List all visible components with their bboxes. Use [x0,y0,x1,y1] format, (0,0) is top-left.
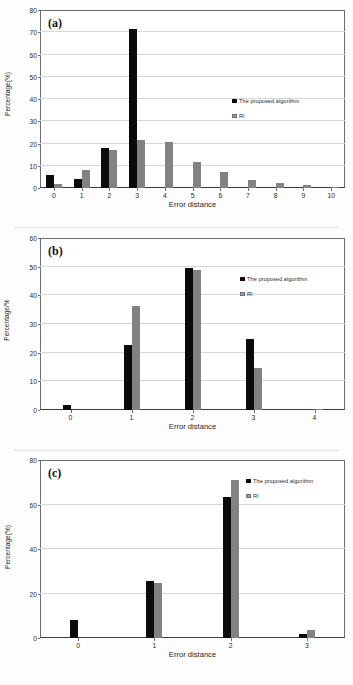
bar-ri [331,187,339,188]
x-tick-label: 2 [191,414,195,421]
x-tick-mark [303,188,304,191]
chart-panel-c: Percentage(%) (c) 020406080 0123 Error d… [0,452,353,680]
x-tick-label: 5 [191,192,195,199]
bar-proposed [246,339,254,410]
bar-group: 0 [40,10,68,188]
x-tick-mark [254,410,255,413]
chart-panel-a: Percentage(%) (a) 01020304050607080 0123… [0,2,353,224]
y-tick-label: 50 [29,263,37,270]
x-tick-mark [82,188,83,191]
bar-group: 1 [101,238,162,410]
bar-ri [193,270,201,410]
bar-group: 1 [68,10,96,188]
x-tick-mark [132,410,133,413]
legend-swatch-ri-icon [240,292,245,297]
y-axis-title-a: Percentage(%) [4,72,11,116]
x-tick-label: 9 [302,192,306,199]
y-tick-mark [38,410,41,411]
bar-ri [137,140,145,188]
x-tick-label: 1 [152,642,156,649]
legend-swatch-proposed-icon [246,479,251,484]
bar-ri [193,162,201,188]
y-tick-label: 80 [29,457,37,464]
x-tick-label: 3 [135,192,139,199]
x-tick-mark [331,188,332,191]
x-tick-mark [154,638,155,641]
bar-series-b: 01234 [40,238,345,410]
y-tick-label: 20 [29,140,37,147]
bar-group: 4 [151,10,179,188]
x-tick-mark [193,188,194,191]
panel-divider-bc [14,450,339,451]
x-tick-mark [71,410,72,413]
bar-ri [307,630,315,638]
x-tick-label: 2 [229,642,233,649]
y-tick-label: 40 [29,546,37,553]
legend-swatch-proposed-icon [240,277,245,282]
bar-group: 3 [223,238,284,410]
x-tick-label: 0 [52,192,56,199]
x-tick-label: 0 [69,414,73,421]
x-tick-label: 0 [76,642,80,649]
bar-ri [82,170,90,188]
legend-item-proposed-c: The proposed algorithm [246,478,313,484]
plot-area-b: (b) 0102030405060 01234 [40,238,345,410]
plot-area-a: (a) 01020304050607080 012345678910 [40,10,345,188]
legend-a: The proposed algorithm RI [232,98,299,119]
bar-group: 6 [206,10,234,188]
bar-proposed [124,345,132,410]
x-tick-mark [220,188,221,191]
x-tick-mark [165,188,166,191]
bar-group: 5 [179,10,207,188]
x-axis-title-b: Error distance [40,422,345,431]
legend-label-proposed-a: The proposed algorithm [239,98,299,104]
legend-b: The proposed algorithm RI [240,276,307,297]
x-tick-label: 1 [130,414,134,421]
y-tick-label: 0 [33,185,37,192]
x-tick-mark [276,188,277,191]
x-tick-mark [54,188,55,191]
bar-proposed [129,29,137,188]
bar-group: 2 [162,238,223,410]
x-tick-mark [137,188,138,191]
bar-proposed [74,179,82,188]
y-tick-mark [38,188,41,189]
bar-ri [276,183,284,188]
y-tick-label: 70 [29,29,37,36]
y-tick-label: 10 [29,378,37,385]
bar-group: 4 [284,238,345,410]
x-tick-mark [248,188,249,191]
legend-label-ri-c: RI [253,493,259,499]
x-tick-label: 3 [305,642,309,649]
bar-ri [303,185,311,188]
x-tick-mark [193,410,194,413]
legend-item-ri-a: RI [232,113,299,119]
bar-proposed [46,175,54,188]
bar-series-a: 012345678910 [40,10,345,188]
y-tick-label: 30 [29,321,37,328]
bar-group: 0 [40,238,101,410]
x-tick-label: 7 [246,192,250,199]
panel-divider-ab [14,227,339,228]
y-tick-label: 40 [29,96,37,103]
figure-page: Percentage(%) (a) 01020304050607080 0123… [0,0,353,685]
y-tick-label: 40 [29,292,37,299]
bar-ri [315,409,323,410]
y-tick-label: 60 [29,235,37,242]
x-tick-label: 4 [163,192,167,199]
bar-ri [254,368,262,410]
bar-ri [132,306,140,410]
x-tick-label: 1 [80,192,84,199]
y-tick-label: 20 [29,349,37,356]
x-tick-label: 3 [252,414,256,421]
x-axis-title-c: Error distance [40,650,345,659]
x-tick-label: 10 [327,192,335,199]
bar-proposed [299,634,307,638]
x-tick-mark [78,638,79,641]
y-tick-label: 10 [29,162,37,169]
x-tick-mark [109,188,110,191]
legend-label-proposed-b: The proposed algorithm [247,276,307,282]
legend-swatch-proposed-icon [232,99,237,104]
bar-proposed [70,620,78,638]
legend-label-ri-a: RI [239,113,245,119]
